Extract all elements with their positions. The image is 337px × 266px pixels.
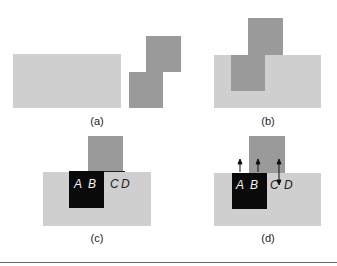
panel-d-arrows — [0, 0, 337, 266]
bottom-divider — [0, 262, 337, 263]
